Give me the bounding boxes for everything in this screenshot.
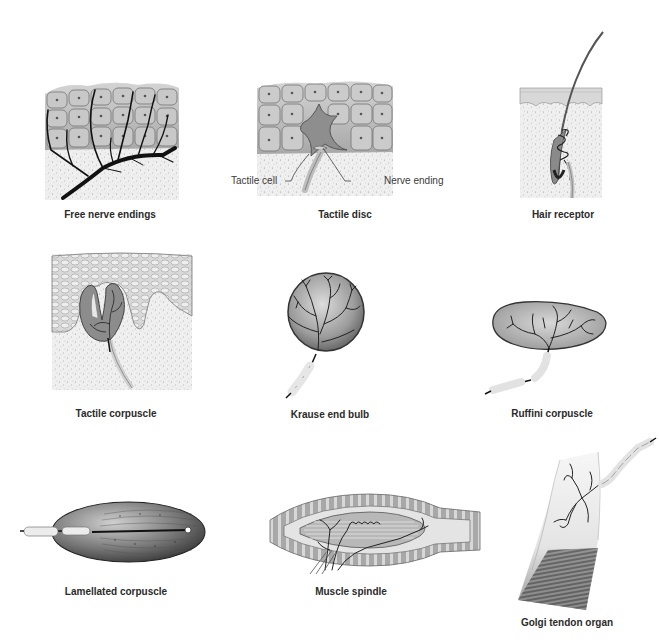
caption-free-nerve-endings: Free nerve endings (64, 209, 156, 220)
muscle-spindle-illustration (270, 490, 480, 575)
caption-tactile-corpuscle: Tactile corpuscle (76, 408, 157, 419)
caption-krause-end-bulb: Krause end bulb (291, 409, 369, 420)
caption-muscle-spindle: Muscle spindle (315, 586, 387, 597)
caption-ruffini-corpuscle: Ruffini corpuscle (511, 408, 593, 419)
callout-nerve-ending: Nerve ending (384, 175, 443, 186)
caption-hair-receptor: Hair receptor (532, 209, 594, 220)
lamellated-corpuscle-illustration (20, 500, 205, 564)
callout-tactile-cell: Tactile cell (231, 175, 277, 186)
caption-tactile-disc: Tactile disc (318, 209, 372, 220)
free-nerve-endings-illustration (43, 80, 183, 202)
ruffini-corpuscle-illustration (485, 298, 615, 400)
hair-receptor-illustration (518, 30, 608, 200)
golgi-tendon-organ-illustration (510, 440, 659, 620)
tactile-corpuscle-illustration (50, 252, 195, 392)
caption-golgi-tendon-organ: Golgi tendon organ (521, 617, 613, 628)
caption-lamellated-corpuscle: Lamellated corpuscle (65, 586, 167, 597)
krause-end-bulb-illustration (280, 272, 372, 397)
